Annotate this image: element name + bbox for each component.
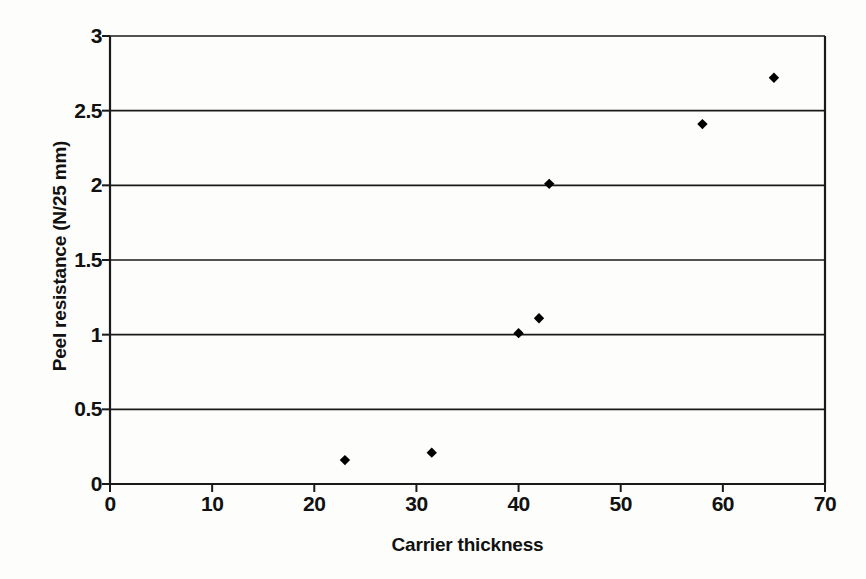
x-axis-title: Carrier thickness xyxy=(110,534,825,556)
x-axis-tick-label: 10 xyxy=(182,492,242,516)
x-axis-tick-label: 60 xyxy=(693,492,753,516)
x-axis-tick-label: 50 xyxy=(591,492,651,516)
x-axis-tick-label: 30 xyxy=(386,492,446,516)
x-axis-tick-label: 0 xyxy=(80,492,140,516)
x-axis-tick-label: 70 xyxy=(795,492,855,516)
x-axis-tick-label-group: 010203040506070 xyxy=(0,0,866,579)
scatter-chart-figure: Peel resistance (N/25 mm) 00.511.522.53 … xyxy=(0,0,866,579)
x-axis-tick-label: 20 xyxy=(284,492,344,516)
x-axis-tick-label: 40 xyxy=(489,492,549,516)
